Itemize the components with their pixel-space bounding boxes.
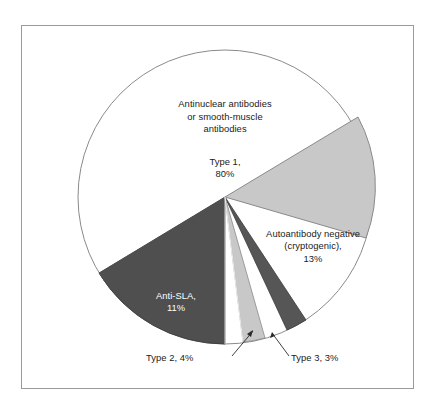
pie-label-anti-sla: Anti-SLA, 11% (122, 290, 230, 315)
callout-leader-type-3 (272, 333, 289, 356)
pie-label-type-3: Type 3, 3% (291, 352, 381, 364)
pie-label-type-1: Antinuclear antibodies or smooth-muscle … (132, 86, 318, 181)
pie-chart-graphic (0, 0, 429, 405)
pie-label-autoantibody-negative: Autoantibody negative (cryptogenic), 13% (238, 228, 388, 265)
pie-chart-figure: Antinuclear antibodies or smooth-muscle … (0, 0, 429, 405)
pie-label-type-2: Type 2, 4% (146, 352, 232, 364)
label-spacer (132, 136, 318, 144)
pie-label-type-1-value: Type 1, 80% (209, 156, 240, 179)
pie-label-type-1-description: Antinuclear antibodies or smooth-muscle … (178, 98, 271, 134)
